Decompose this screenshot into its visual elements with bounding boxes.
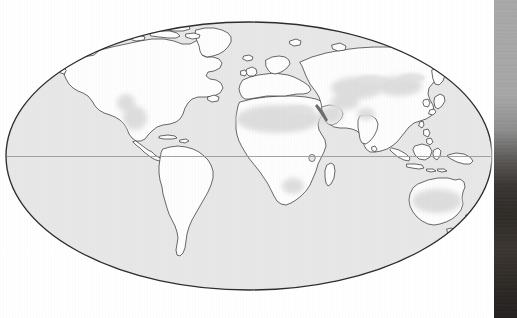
land-korea (423, 99, 430, 107)
arid-thar (357, 108, 375, 120)
land-cuba (159, 135, 177, 139)
scan-edge-shadow (494, 0, 517, 318)
lake-victoria (309, 154, 315, 161)
land-alaska (41, 61, 66, 74)
scanned-page (0, 0, 517, 318)
arid-streak-2 (399, 73, 425, 83)
land-iceland (243, 55, 253, 61)
arid-australia (412, 189, 462, 213)
land-british-isles (246, 67, 257, 76)
world-map-svg (0, 0, 517, 318)
arid-great-basin (117, 94, 135, 112)
world-map-figure (0, 0, 517, 318)
arid-kalahari (282, 178, 304, 194)
arid-streak-1 (356, 75, 388, 85)
arid-streak-3 (286, 105, 314, 115)
